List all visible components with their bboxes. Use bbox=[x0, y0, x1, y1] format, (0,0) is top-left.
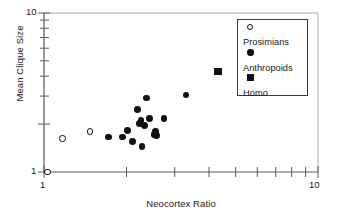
data-point-homo bbox=[214, 68, 222, 76]
data-point-anthropoids bbox=[105, 134, 112, 141]
data-point-anthropoids bbox=[139, 143, 146, 150]
legend-label-homo: Homo bbox=[243, 88, 268, 98]
filled-square-icon bbox=[247, 74, 254, 81]
data-point-anthropoids bbox=[161, 115, 168, 122]
data-point-anthropoids bbox=[143, 95, 150, 102]
data-point-anthropoids bbox=[146, 115, 153, 122]
data-point-prosimians bbox=[87, 128, 93, 134]
data-point-anthropoids bbox=[183, 92, 190, 99]
legend-label-prosimians: Prosimians bbox=[243, 37, 289, 47]
legend-entry-anthropoids: Anthropoids bbox=[243, 49, 307, 75]
scatter-chart-figure: 10 1 1 10 Mean Clique Size Neocortex Rat… bbox=[0, 0, 337, 220]
filled-circle-icon bbox=[247, 49, 254, 56]
data-point-prosimians bbox=[44, 169, 50, 175]
legend-box: Prosimians Anthropoids Homo bbox=[237, 19, 308, 96]
legend-label-anthropoids: Anthropoids bbox=[243, 63, 293, 73]
data-point-anthropoids bbox=[153, 132, 160, 139]
legend-entry-homo: Homo bbox=[243, 74, 307, 100]
data-point-anthropoids bbox=[119, 134, 126, 141]
data-point-anthropoids bbox=[141, 122, 148, 129]
data-point-anthropoids bbox=[124, 127, 131, 134]
legend-entry-prosimians: Prosimians bbox=[243, 24, 307, 49]
data-point-anthropoids bbox=[129, 138, 136, 145]
data-point-prosimians bbox=[59, 135, 65, 141]
open-circle-icon bbox=[247, 24, 253, 30]
data-point-anthropoids bbox=[134, 106, 141, 113]
